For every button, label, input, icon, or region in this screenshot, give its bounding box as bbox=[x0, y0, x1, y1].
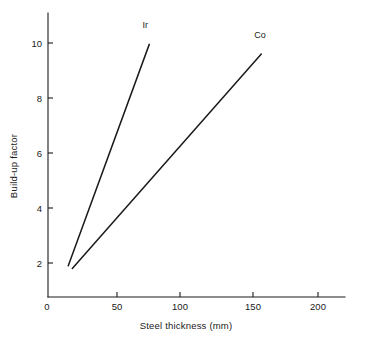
x-tick-label-150: 150 bbox=[245, 301, 261, 312]
y-tick-label-8: 8 bbox=[37, 93, 42, 104]
x-tick-label-0: 0 bbox=[44, 301, 49, 312]
y-tick-label-4: 4 bbox=[37, 203, 42, 214]
x-tick-label-100: 100 bbox=[172, 301, 188, 312]
y-axis-ticks bbox=[48, 43, 53, 263]
x-axis-ticks bbox=[117, 292, 318, 297]
series-line-ir bbox=[68, 44, 149, 265]
series-label-co: Co bbox=[254, 30, 266, 40]
plot-canvas: 10 8 6 4 2 0 50 100 150 200 Ir Co Steel … bbox=[0, 0, 374, 344]
chart-figure: 10 8 6 4 2 0 50 100 150 200 Ir Co Steel … bbox=[0, 0, 374, 344]
y-tick-label-6: 6 bbox=[37, 148, 42, 159]
x-tick-label-50: 50 bbox=[112, 301, 123, 312]
x-tick-label-200: 200 bbox=[310, 301, 326, 312]
series-line-co bbox=[72, 54, 261, 269]
y-tick-label-2: 2 bbox=[37, 258, 42, 269]
series-label-ir: Ir bbox=[142, 20, 148, 30]
y-tick-label-10: 10 bbox=[31, 38, 42, 49]
y-axis-title: Build-up factor bbox=[8, 134, 19, 198]
x-axis-title: Steel thickness (mm) bbox=[140, 320, 233, 331]
